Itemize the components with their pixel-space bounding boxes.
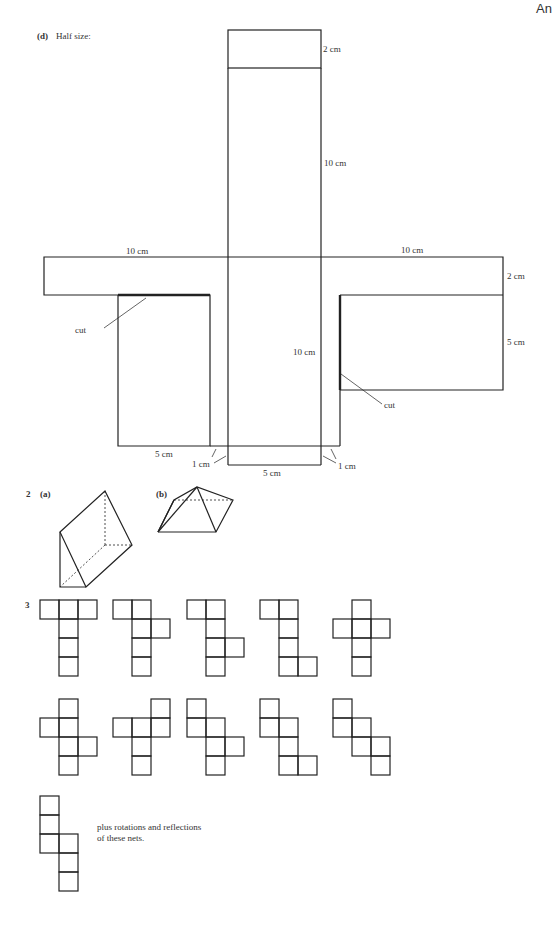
cube-net-1 [40, 600, 97, 676]
q3-note-line1: plus rotations and reflections [97, 822, 202, 832]
q2-number: 2 [26, 489, 31, 499]
dim-right-arm: 10 cm [401, 245, 423, 255]
part-d-title: Half size: [56, 31, 91, 41]
cube-net-7 [113, 699, 170, 775]
cube-nets [40, 600, 390, 891]
dim-right-gap: 1 cm [338, 461, 356, 471]
cube-net-6 [40, 699, 97, 775]
part-d-label: (d) [37, 31, 48, 41]
cube-net-2 [113, 600, 170, 676]
dim-top-flap: 2 cm [323, 44, 341, 54]
cube-net-4 [260, 600, 317, 676]
q3-number: 3 [25, 600, 30, 610]
answer-page: An (d) Half size: 2 cm 10 cm 10 cm 10 cm… [0, 0, 552, 927]
cube-net-9 [260, 699, 317, 775]
cube-net-11 [40, 796, 78, 891]
q2-part-a: (a) [40, 489, 51, 499]
dim-top-panel: 10 cm [324, 158, 346, 168]
dim-right-panel-height: 5 cm [507, 337, 525, 347]
dim-right-arm-height: 2 cm [507, 271, 525, 281]
cube-net-8 [187, 699, 244, 775]
dim-center-panel: 10 cm [293, 347, 315, 357]
q3-note-line2: of these nets. [97, 833, 144, 843]
cube-net-3 [187, 600, 244, 676]
dim-left-arm: 10 cm [126, 246, 148, 256]
triangular-prism-drawing [60, 491, 132, 587]
dim-left-panel-width: 5 cm [155, 449, 173, 459]
cube-net-10 [333, 699, 390, 775]
cube-net-5 [333, 600, 390, 676]
corner-text: An [536, 1, 552, 16]
box-net-diagram [44, 30, 503, 465]
cut-label-right: cut [384, 400, 395, 410]
q2-part-b: (b) [156, 489, 167, 499]
cut-label-left: cut [75, 325, 86, 335]
dim-bottom-flap-width: 5 cm [263, 468, 281, 478]
dim-left-gap: 1 cm [192, 459, 210, 469]
square-pyramid-drawing [158, 487, 233, 532]
